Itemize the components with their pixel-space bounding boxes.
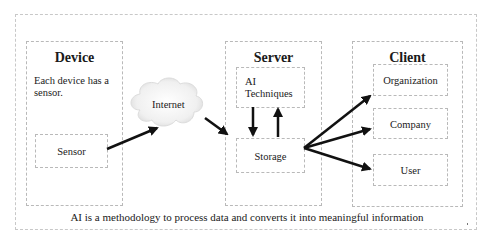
ai-techniques-line1: AI (245, 76, 256, 88)
client-item-user: User (373, 154, 448, 186)
storage-label: Storage (237, 150, 304, 161)
company-label: Company (374, 118, 447, 129)
ai-techniques-box: AI Techniques (236, 67, 305, 108)
diagram-caption: AI is a methodology to process data and … (0, 211, 494, 223)
client-item-company: Company (373, 108, 448, 139)
sensor-label: Sensor (36, 146, 107, 157)
device-description: Each device has a sensor. (34, 75, 114, 99)
client-item-organization: Organization (373, 64, 448, 96)
device-box: Device Each device has a sensor. Sensor (26, 41, 123, 206)
ai-techniques-line2: Techniques (245, 88, 293, 100)
sensor-box: Sensor (35, 134, 108, 168)
user-label: User (374, 165, 447, 176)
client-box: Client Organization Company User (352, 41, 463, 207)
server-box: Server AI Techniques Storage (225, 41, 322, 206)
internet-label: Internet (152, 99, 185, 110)
organization-label: Organization (374, 75, 447, 86)
storage-box: Storage (236, 138, 305, 173)
device-title: Device (27, 50, 122, 66)
server-title: Server (226, 50, 321, 66)
scan-speck (467, 223, 468, 225)
